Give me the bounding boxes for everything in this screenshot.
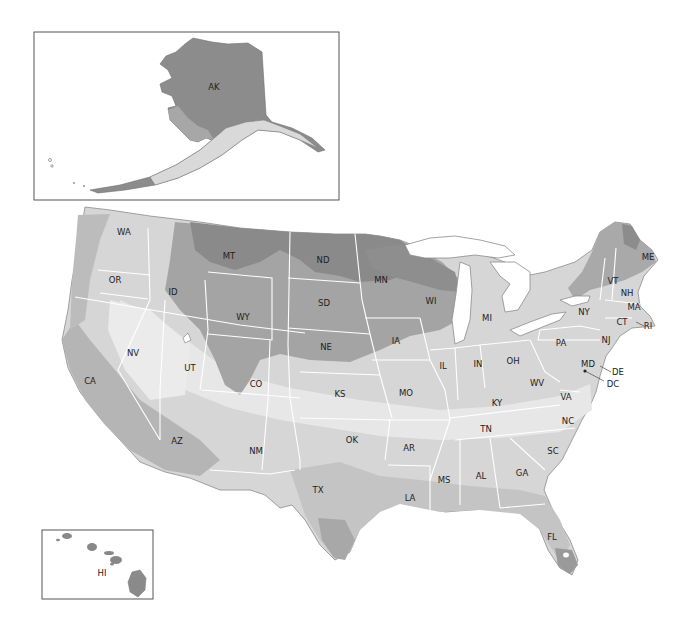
- lake-okeechobee: [563, 552, 570, 558]
- state-label-co: CO: [250, 379, 263, 389]
- state-label-ia: IA: [392, 336, 401, 346]
- state-label-dc: DC: [607, 379, 620, 389]
- state-label-ok: OK: [346, 435, 359, 445]
- state-label-nv: NV: [127, 348, 139, 358]
- kauai-island: [62, 533, 72, 539]
- oahu-island: [87, 543, 97, 551]
- state-label-md: MD: [581, 359, 595, 369]
- hawaii-inset: HI: [42, 530, 153, 599]
- state-label-nj: NJ: [602, 335, 611, 345]
- state-label-ar: AR: [403, 443, 415, 453]
- state-label-ne: NE: [320, 342, 332, 352]
- state-label-wa: WA: [117, 227, 131, 237]
- state-label-az: AZ: [171, 436, 183, 446]
- state-label-al: AL: [476, 471, 487, 481]
- state-label-mo: MO: [399, 388, 413, 398]
- state-label-va: VA: [560, 392, 571, 402]
- state-label-ms: MS: [438, 475, 451, 485]
- lake-superior: [405, 236, 515, 258]
- state-label-oh: OH: [506, 356, 519, 366]
- state-label-wi: WI: [426, 296, 437, 306]
- state-label-in: IN: [474, 359, 483, 369]
- state-label-sc: SC: [547, 446, 558, 456]
- state-label-nm: NM: [249, 446, 263, 456]
- state-label-la: LA: [405, 493, 416, 503]
- state-label-nc: NC: [562, 416, 574, 426]
- state-label-mn: MN: [374, 275, 388, 285]
- state-label-tx: TX: [311, 485, 323, 495]
- state-label-il: IL: [439, 361, 447, 371]
- state-label-de: DE: [612, 367, 624, 377]
- state-label-ky: KY: [492, 398, 503, 408]
- state-label-mt: MT: [223, 251, 236, 261]
- state-label-ks: KS: [335, 389, 346, 399]
- state-label-ct: CT: [616, 317, 628, 327]
- state-label-ut: UT: [184, 363, 196, 373]
- state-label-ca: CA: [84, 376, 96, 386]
- state-label-or: OR: [109, 275, 122, 285]
- state-label-ri: RI: [644, 321, 652, 331]
- state-label-nd: ND: [317, 255, 330, 265]
- state-label-id: ID: [168, 287, 178, 297]
- state-label-ga: GA: [516, 468, 529, 478]
- state-label-sd: SD: [318, 298, 330, 308]
- state-label-pa: PA: [556, 338, 567, 348]
- state-label-nh: NH: [621, 288, 634, 298]
- us-map: AK HI: [0, 0, 690, 623]
- state-label-wv: WV: [530, 378, 544, 388]
- state-label-wy: WY: [236, 312, 250, 322]
- state-label-tn: TN: [479, 424, 492, 434]
- state-label-me: ME: [642, 252, 655, 262]
- state-label-hi: HI: [98, 568, 107, 578]
- state-label-ak: AK: [208, 82, 220, 92]
- state-label-ny: NY: [578, 307, 590, 317]
- state-label-vt: VT: [607, 276, 619, 286]
- state-label-ma: MA: [627, 302, 640, 312]
- state-label-fl: FL: [547, 532, 557, 542]
- alaska-inset: AK: [34, 32, 339, 200]
- state-label-mi: MI: [482, 313, 492, 323]
